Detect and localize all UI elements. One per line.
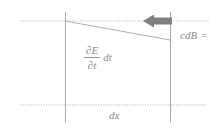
differential-dt: dt (103, 52, 112, 63)
fraction-denominator: ∂t (86, 58, 99, 71)
physics-diagram: ∂E ∂t dt cdB = dx (0, 0, 222, 131)
field-term-symbol: cdB (180, 30, 197, 41)
field-term-label: cdB = (180, 30, 207, 41)
partial-derivative-fraction: ∂E ∂t (84, 44, 100, 72)
propagation-arrow-icon (143, 15, 172, 28)
fraction-numerator: ∂E (84, 44, 100, 57)
equals-sign: = (201, 30, 207, 41)
width-term-label: dx (109, 110, 119, 121)
flux-term-label: ∂E ∂t dt (84, 44, 112, 72)
